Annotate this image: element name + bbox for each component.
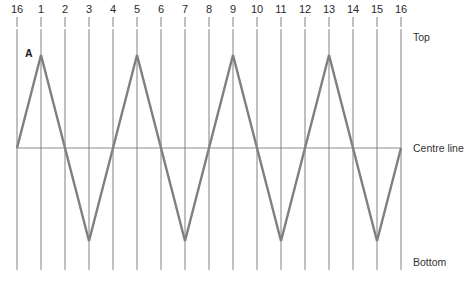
level-label-top: Top — [413, 31, 430, 43]
axis-tick-marks — [17, 17, 401, 27]
waveform-diagram: 1612345678910111213141516 Top Centre lin… — [0, 0, 471, 281]
axis-number-16: 16 — [386, 2, 416, 16]
waveform-annotation-a: A — [25, 47, 33, 59]
level-label-bottom: Bottom — [413, 256, 446, 268]
level-label-centre: Centre line — [413, 142, 464, 154]
waveform-canvas — [0, 0, 471, 281]
